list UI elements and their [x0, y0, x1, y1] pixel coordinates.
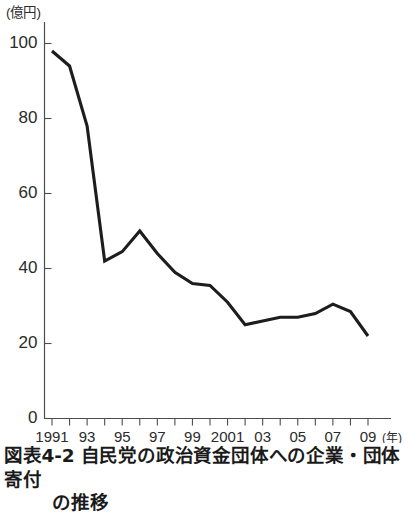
y-axis-tick-label: 20	[19, 333, 38, 352]
y-axis-tick-label: 0	[28, 408, 37, 427]
caption-line-2: の推移	[4, 491, 417, 515]
chart-area: (億円) 199193959799200103050709(年) 0204060…	[0, 0, 419, 443]
x-ticks-group	[52, 419, 368, 426]
x-axis-tick-label: 99	[184, 428, 201, 444]
x-axis-tick-label: 97	[149, 428, 166, 444]
x-axis-tick-label: 2001	[211, 428, 244, 444]
x-axis-tick-label: 07	[325, 428, 342, 444]
axes-group	[45, 22, 392, 419]
x-axis-tick-label: 93	[79, 428, 96, 444]
x-axis-tick-label: 05	[289, 428, 306, 444]
caption-line-1: 図表4-2 自民党の政治資金団体への企業・団体寄付	[4, 445, 400, 490]
chart-axes	[45, 22, 392, 419]
y-tick-labels-group: 020406080100	[9, 33, 37, 427]
y-axis-unit-group: (億円)	[6, 5, 41, 20]
x-tick-labels-group: 199193959799200103050709(年)	[35, 428, 402, 444]
figure-caption: 図表4-2 自民党の政治資金団体への企業・団体寄付 の推移	[0, 444, 419, 515]
y-ticks-group	[45, 44, 52, 419]
y-axis-tick-label: 40	[19, 258, 38, 277]
x-axis-tick-label: 1991	[35, 428, 68, 444]
data-series-line	[52, 51, 368, 336]
y-axis-tick-label: 80	[19, 108, 38, 127]
x-axis-unit-label: (年)	[382, 431, 402, 444]
y-axis-unit-label: (億円)	[6, 5, 41, 20]
x-axis-tick-label: 09	[360, 428, 377, 444]
y-axis-tick-label: 60	[19, 183, 38, 202]
y-axis-tick-label: 100	[9, 33, 37, 52]
line-chart: (億円) 199193959799200103050709(年) 0204060…	[0, 0, 419, 443]
data-series-group	[52, 51, 368, 336]
x-axis-tick-label: 95	[114, 428, 131, 444]
x-axis-tick-label: 03	[254, 428, 271, 444]
